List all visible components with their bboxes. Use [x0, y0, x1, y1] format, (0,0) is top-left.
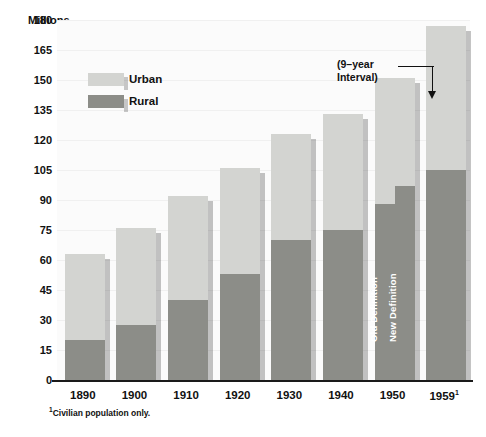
legend-item-rural: Rural: [88, 90, 162, 112]
bar-1930[interactable]: [271, 134, 311, 380]
bar-segment-urban-1900: [116, 228, 156, 325]
x-axis-line: [52, 380, 473, 382]
y-axis-tick-label: 165: [6, 44, 52, 56]
bar-label-new-definition: New Definition: [387, 273, 398, 342]
y-axis-tick-label: 90: [6, 194, 52, 206]
y-axis-tick-label: 30: [6, 314, 52, 326]
bar-1900[interactable]: [116, 228, 156, 380]
x-axis-tick-1900: 1900: [109, 389, 161, 401]
y-axis-tick-label: 15: [6, 344, 52, 356]
interval-annotation-line1: (9–year: [337, 58, 378, 71]
x-axis-tick-1930: 1930: [264, 389, 316, 401]
annotation-leader-vertical: [432, 66, 433, 93]
legend-item-urban: Urban: [88, 68, 162, 90]
y-axis-tick-label: 60: [6, 254, 52, 266]
bar-segment-rural-1890: [65, 340, 105, 380]
legend: Urban Rural: [88, 68, 162, 112]
x-axis-tick-1890: 1890: [57, 389, 109, 401]
y-axis-tick-label: 150: [6, 74, 52, 86]
y-axis-tick-label: 105: [6, 164, 52, 176]
gridline: [57, 50, 470, 51]
x-axis-tick-1940: 1940: [315, 389, 367, 401]
y-axis-tick-label: 180: [6, 14, 52, 26]
bar-shadow: [156, 233, 161, 380]
bar-shadow: [466, 31, 471, 380]
bar-shadow: [260, 173, 265, 380]
y-axis-tick-label: 0: [6, 374, 52, 386]
y-axis-ticks: 1801651501351201059075604530150: [0, 0, 52, 437]
bar-1920[interactable]: [220, 168, 260, 380]
bar-segment-rural-1940: [323, 230, 363, 380]
bar-1890[interactable]: [65, 254, 105, 380]
legend-label-rural: Rural: [129, 95, 158, 107]
bar-label-old-definition: Old Definition: [368, 277, 379, 342]
legend-label-urban: Urban: [129, 73, 162, 85]
bar-segment-rural-1920: [220, 274, 260, 380]
bar-segment-urban-1890: [65, 254, 105, 340]
bar-segment-rural-1930: [271, 240, 311, 380]
bar-segment-rural-1959: [426, 170, 466, 380]
footnote: 1Civilian population only.: [49, 406, 150, 418]
bar-1950[interactable]: Old DefinitionNew Definition: [375, 78, 415, 380]
interval-annotation-line2: Interval): [337, 71, 378, 84]
legend-swatch-rural-icon: [88, 95, 124, 108]
bar-segment-urban-1920: [220, 168, 260, 274]
bar-1910[interactable]: [168, 196, 208, 380]
bar-shadow: [208, 201, 213, 380]
bar-shadow: [415, 83, 420, 380]
population-bar-chart: Millions Old DefinitionNew Definition 18…: [0, 0, 486, 437]
bar-segment-urban-1930: [271, 134, 311, 240]
bar-1940[interactable]: [323, 114, 363, 380]
bar-segment-rural-1910: [168, 300, 208, 380]
bar-shadow: [105, 259, 110, 380]
legend-swatch-urban-icon: [88, 73, 124, 86]
x-axis-tick-1959: 19591: [418, 389, 470, 402]
bar-segment-urban-1910: [168, 196, 208, 300]
gridline: [57, 20, 470, 21]
footnote-text: Civilian population only.: [53, 408, 151, 418]
y-axis-tick-label: 45: [6, 284, 52, 296]
x-axis-tick-1920: 1920: [212, 389, 264, 401]
bar-segment-rural-1900: [116, 325, 156, 380]
x-axis-tick-1910: 1910: [160, 389, 212, 401]
x-axis-tick-1950: 1950: [367, 389, 419, 401]
y-axis-tick-label: 135: [6, 104, 52, 116]
y-axis-tick-label: 75: [6, 224, 52, 236]
bar-shadow: [311, 139, 316, 380]
y-axis-tick-label: 120: [6, 134, 52, 146]
bar-segment-urban-1940: [323, 114, 363, 230]
annotation-arrow-icon: [428, 91, 436, 99]
interval-annotation: (9–year Interval): [337, 58, 378, 84]
annotation-leader-horizontal: [398, 66, 434, 67]
